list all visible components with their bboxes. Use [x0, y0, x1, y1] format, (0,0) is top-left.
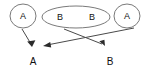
arrow-head-left-a-to-a	[27, 40, 35, 47]
target-label-a: A	[30, 56, 37, 67]
source-node-left-circle-label: A	[20, 11, 26, 21]
arrow-line-right-a-to-a	[47, 28, 134, 45]
source-node-middle-ellipse	[42, 6, 110, 28]
target-label-b: B	[107, 56, 114, 67]
diagram-svg: A B B A A B	[0, 0, 153, 75]
diagram-canvas: A B B A A B	[0, 0, 153, 75]
arrow-head-right-a-to-a	[43, 42, 51, 48]
source-node-middle-ellipse-label-right: B	[89, 12, 95, 22]
source-node-right-circle-label: A	[124, 11, 130, 21]
source-node-middle-ellipse-label-left: B	[57, 12, 63, 22]
arrow-line-b-to-b	[64, 29, 102, 44]
